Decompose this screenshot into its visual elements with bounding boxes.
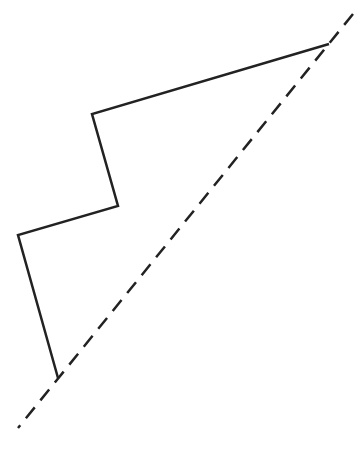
diagram-canvas — [0, 0, 361, 476]
solid-zigzag-path — [18, 44, 329, 378]
